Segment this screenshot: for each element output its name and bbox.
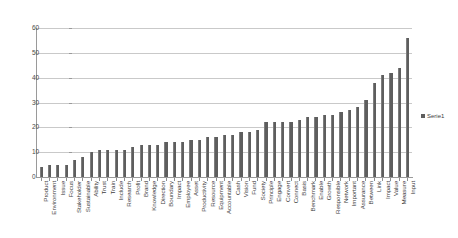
bar bbox=[348, 110, 351, 177]
x-label-slot: Benchmark bbox=[304, 181, 312, 237]
x-label-slot: Stakeholder bbox=[70, 181, 78, 237]
bar-slot bbox=[79, 28, 87, 177]
bar bbox=[298, 120, 301, 177]
bar-slot bbox=[170, 28, 178, 177]
bar-slot bbox=[370, 28, 378, 177]
legend-label: Serie1 bbox=[427, 113, 444, 119]
bar-slot bbox=[137, 28, 145, 177]
bar bbox=[48, 165, 51, 177]
y-axis-tick-label: 30 bbox=[32, 99, 36, 106]
bar bbox=[140, 145, 143, 177]
bar bbox=[373, 83, 376, 177]
bar-slot bbox=[212, 28, 220, 177]
x-label-slot: Fund bbox=[245, 181, 253, 237]
bar bbox=[339, 112, 342, 177]
bar bbox=[40, 167, 43, 177]
bar-slot bbox=[262, 28, 270, 177]
x-label-slot: Boundary bbox=[162, 181, 170, 237]
y-axis-tick-label: 20 bbox=[32, 124, 36, 131]
x-label-slot: Brand bbox=[137, 181, 145, 237]
x-label-slot: Principle bbox=[262, 181, 270, 237]
x-label-slot: Profit bbox=[129, 181, 137, 237]
bar-slot bbox=[279, 28, 287, 177]
bar-slot bbox=[204, 28, 212, 177]
legend-swatch-serie1 bbox=[421, 114, 425, 118]
bar-slot bbox=[312, 28, 320, 177]
x-label-slot: Cash bbox=[229, 181, 237, 237]
x-label-slot: Impact bbox=[378, 181, 386, 237]
x-label-slot: Environment bbox=[45, 181, 53, 237]
bar bbox=[81, 157, 84, 177]
bar-slot bbox=[378, 28, 386, 177]
x-label-slot: Productivity bbox=[195, 181, 203, 237]
bar-slot bbox=[387, 28, 395, 177]
bar bbox=[90, 152, 93, 177]
x-label-slot: Enable bbox=[312, 181, 320, 237]
bar-chart: 0102030405060 ProductEnvironmentIssueFoc… bbox=[0, 0, 458, 238]
bar-slot bbox=[362, 28, 370, 177]
x-label-slot: Ability bbox=[87, 181, 95, 237]
bar-slot bbox=[37, 28, 45, 177]
bar bbox=[289, 122, 292, 177]
bar-slot bbox=[95, 28, 103, 177]
bar bbox=[131, 147, 134, 177]
bar-slot bbox=[337, 28, 345, 177]
bar-slot bbox=[70, 28, 78, 177]
x-axis-category-label: Input bbox=[410, 181, 416, 194]
y-axis-tick-label: 10 bbox=[32, 149, 36, 156]
x-label-slot: Value bbox=[387, 181, 395, 237]
bar-slot bbox=[195, 28, 203, 177]
x-label-slot: Include bbox=[112, 181, 120, 237]
x-label-slot: Society bbox=[254, 181, 262, 237]
x-label-slot: Growth bbox=[320, 181, 328, 237]
bar-slot bbox=[245, 28, 253, 177]
bar-slot bbox=[328, 28, 336, 177]
bar-slot bbox=[162, 28, 170, 177]
x-label-slot: Resource bbox=[204, 181, 212, 237]
bar-slot bbox=[270, 28, 278, 177]
bar bbox=[406, 38, 409, 177]
x-label-slot: Measure bbox=[395, 181, 403, 237]
bar bbox=[398, 68, 401, 177]
bar bbox=[156, 145, 159, 177]
bar-slot bbox=[112, 28, 120, 177]
y-axis-tick-label: 0 bbox=[32, 174, 36, 181]
bar-slot bbox=[345, 28, 353, 177]
x-label-slot: Employee bbox=[179, 181, 187, 237]
bar-slot bbox=[295, 28, 303, 177]
bar bbox=[115, 150, 118, 177]
y-axis-tick-label: 60 bbox=[32, 25, 36, 32]
bar bbox=[123, 150, 126, 177]
x-label-slot: Link bbox=[370, 181, 378, 237]
bar-slot bbox=[320, 28, 328, 177]
bar-slot bbox=[304, 28, 312, 177]
x-label-slot: Assurance bbox=[353, 181, 361, 237]
bar-slot bbox=[229, 28, 237, 177]
bar bbox=[223, 135, 226, 177]
x-label-slot: Vision bbox=[237, 181, 245, 237]
bar-slot bbox=[120, 28, 128, 177]
bar bbox=[239, 132, 242, 177]
bar bbox=[389, 73, 392, 177]
bar bbox=[364, 100, 367, 177]
bar bbox=[98, 150, 101, 177]
y-axis-tick-label: 50 bbox=[32, 50, 36, 57]
bar-slot bbox=[45, 28, 53, 177]
bar-slot bbox=[179, 28, 187, 177]
x-label-slot: Knowledge bbox=[145, 181, 153, 237]
x-label-slot: Research bbox=[120, 181, 128, 237]
bar bbox=[189, 140, 192, 177]
bar-slot bbox=[154, 28, 162, 177]
bar bbox=[256, 130, 259, 177]
bar bbox=[73, 160, 76, 177]
bar-slot bbox=[220, 28, 228, 177]
bar-slot bbox=[62, 28, 70, 177]
bar-slot bbox=[395, 28, 403, 177]
x-label-slot: Input bbox=[403, 181, 411, 237]
x-label-slot: Convert bbox=[279, 181, 287, 237]
bar bbox=[248, 132, 251, 177]
bar bbox=[65, 165, 68, 177]
bar bbox=[381, 75, 384, 177]
bar-slot bbox=[187, 28, 195, 177]
bar bbox=[306, 117, 309, 177]
